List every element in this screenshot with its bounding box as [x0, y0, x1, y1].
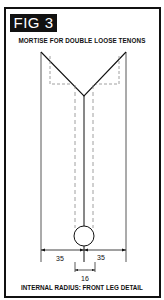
figure-caption: INTERNAL RADIUS: FRONT LEG DETAIL [6, 284, 158, 291]
arrow-hole-left-icon [75, 269, 78, 271]
arrow-hole-right-icon [92, 269, 95, 271]
dim-left-label: 35 [56, 255, 64, 262]
dim-right-label: 35 [97, 254, 105, 261]
dim-hole-label: 16 [81, 275, 89, 282]
arrow-left-icon [41, 249, 45, 252]
arrow-centre-left-icon [80, 249, 84, 252]
arrow-right-icon [122, 249, 126, 252]
mitre-v [41, 52, 126, 96]
radius-hole [74, 226, 94, 246]
mortise-diagram: 35 35 16 [0, 0, 164, 300]
arrow-centre-right-icon [84, 249, 88, 252]
